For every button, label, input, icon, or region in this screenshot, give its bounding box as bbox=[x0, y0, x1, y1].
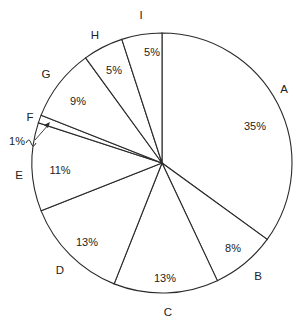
value-label-e: 11% bbox=[49, 164, 70, 176]
category-label-d: D bbox=[56, 264, 64, 276]
category-label-f: F bbox=[26, 111, 33, 123]
value-label-i: 5% bbox=[144, 46, 160, 58]
category-label-a: A bbox=[280, 83, 288, 95]
category-label-i: I bbox=[139, 9, 142, 21]
value-label-h: 5% bbox=[106, 64, 122, 76]
category-label-b: B bbox=[254, 270, 262, 282]
pie-slices bbox=[32, 33, 292, 293]
value-label-c: 13% bbox=[154, 272, 176, 284]
value-label-d: 13% bbox=[76, 236, 98, 248]
pie-chart: 35% 8% 13% 13% 11% 1% 9% 5% 5% A B C D E… bbox=[0, 0, 302, 331]
value-label-b: 8% bbox=[225, 242, 241, 254]
category-label-h: H bbox=[91, 29, 99, 41]
category-label-e: E bbox=[15, 169, 23, 181]
value-label-f: 1% bbox=[9, 135, 25, 147]
category-label-g: G bbox=[42, 68, 51, 80]
value-label-g: 9% bbox=[70, 95, 86, 107]
category-label-c: C bbox=[164, 306, 172, 318]
value-label-a: 35% bbox=[244, 120, 266, 132]
